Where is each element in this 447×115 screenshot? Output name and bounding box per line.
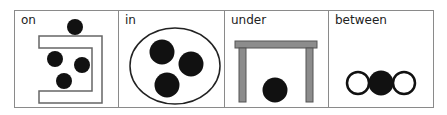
- panel-on: on: [15, 11, 119, 107]
- table-leg: [306, 48, 313, 102]
- on-illustration: [15, 11, 119, 109]
- outline-circle-icon: [393, 72, 415, 94]
- ball-icon: [74, 57, 90, 73]
- box-shape: [39, 36, 102, 103]
- between-illustration: [329, 11, 433, 109]
- ball-icon: [150, 40, 175, 65]
- ball-icon: [263, 78, 288, 103]
- panel-in: in: [119, 11, 225, 107]
- ball-icon: [179, 52, 204, 77]
- ball-icon: [47, 51, 63, 67]
- table-leg: [239, 48, 246, 102]
- panel-between: between: [329, 11, 433, 107]
- ball-icon: [369, 71, 394, 96]
- panel-under: under: [225, 11, 329, 107]
- outline-circle-icon: [347, 72, 369, 94]
- table-top: [235, 41, 317, 48]
- prepositions-strip: on in under between: [14, 10, 434, 108]
- ball-icon: [155, 73, 180, 98]
- ball-icon: [56, 73, 72, 89]
- in-illustration: [119, 11, 225, 109]
- ball-on-top-icon: [67, 19, 83, 35]
- under-illustration: [225, 11, 329, 109]
